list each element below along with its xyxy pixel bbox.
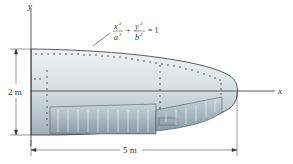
- lower-panel-left: [50, 104, 156, 134]
- svg-text:2: 2: [119, 21, 122, 26]
- svg-text:y: y: [134, 22, 139, 31]
- svg-text:a: a: [114, 33, 118, 42]
- svg-text:2: 2: [140, 21, 143, 26]
- y-axis-label: y: [27, 1, 32, 11]
- height-label: 2 m: [8, 87, 22, 97]
- ellipse-fuselage-diagram: y x x 2 a 2 + y 2 b 2 = 1 2 m 5 m: [0, 0, 293, 164]
- svg-text:= 1: = 1: [148, 26, 159, 35]
- ellipse-equation: x 2 a 2 + y 2 b 2 = 1: [113, 21, 159, 42]
- svg-text:+: +: [126, 26, 131, 35]
- svg-text:b: b: [135, 33, 139, 42]
- svg-text:x: x: [113, 22, 118, 31]
- x-axis-label: x: [277, 86, 282, 96]
- svg-text:2: 2: [140, 32, 143, 37]
- equation-leader-line: [93, 33, 110, 46]
- length-label: 5 m: [123, 145, 137, 155]
- svg-text:2: 2: [119, 32, 122, 37]
